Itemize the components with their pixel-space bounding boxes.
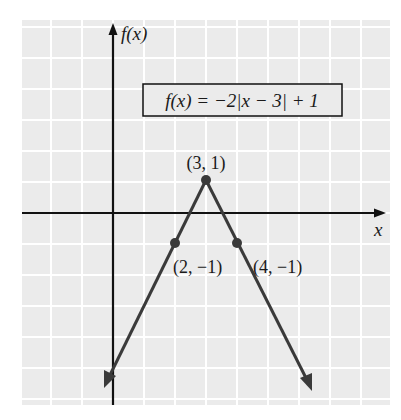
point-right-label: (4, −1) [253,257,302,278]
point-left [170,238,180,248]
x-axis-label: x [373,219,383,240]
equation-label: f(x) = −2|x − 3| + 1 [165,90,319,112]
point-right [232,238,242,248]
vertex-point [201,175,211,185]
point-left-label: (2, −1) [173,257,222,278]
y-axis-label: f(x) [121,23,147,45]
vertex-label: (3, 1) [187,153,226,174]
absolute-value-graph: f(x) = −2|x − 3| + 1 f(x) x (3, 1) (2, −… [0,0,401,420]
